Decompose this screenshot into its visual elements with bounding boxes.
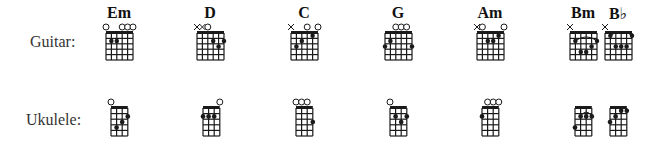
ukulele-row-label: Ukulele:	[26, 111, 81, 129]
guitar-row-label: Guitar:	[30, 33, 75, 51]
finger-dot	[607, 120, 612, 125]
finger-dot	[310, 120, 315, 125]
open-string-marker	[130, 24, 136, 30]
finger-dot	[578, 114, 583, 119]
ukulele-diagram-d	[193, 98, 230, 146]
finger-dot	[404, 114, 409, 119]
open-string-marker	[304, 99, 310, 105]
finger-dot	[583, 50, 588, 55]
finger-dot	[629, 33, 634, 38]
guitar-diagram-c	[281, 23, 328, 70]
finger-dot	[589, 44, 594, 49]
open-string-marker	[304, 24, 310, 30]
chord-name-d: D	[180, 4, 240, 22]
finger-dot	[398, 120, 403, 125]
finger-dot	[608, 33, 613, 38]
finger-dot	[578, 50, 583, 55]
finger-dot	[299, 39, 304, 44]
finger-dot	[479, 114, 484, 119]
guitar-diagram-bb	[595, 23, 642, 70]
guitar-diagram-em	[96, 23, 143, 70]
chord-name-g: G	[368, 4, 428, 22]
open-string-marker	[387, 99, 393, 105]
muted-string-marker	[194, 24, 200, 30]
finger-dot	[200, 114, 205, 119]
guitar-diagram-g	[375, 23, 422, 70]
finger-dot	[573, 39, 578, 44]
finger-dot	[624, 44, 629, 49]
ukulele-diagram-bb	[600, 98, 637, 146]
open-string-marker	[495, 99, 501, 105]
finger-dot	[409, 44, 414, 49]
ukulele-diagram-em	[101, 98, 138, 146]
open-string-marker	[204, 24, 210, 30]
finger-dot	[294, 44, 299, 49]
ukulele-diagram-bm	[565, 98, 602, 146]
finger-dot	[114, 125, 119, 130]
ukulele-diagram-am	[472, 98, 509, 146]
finger-dot	[388, 39, 393, 44]
open-string-marker	[501, 24, 507, 30]
finger-dot	[572, 125, 577, 130]
finger-dot	[210, 39, 215, 44]
open-string-marker	[479, 24, 485, 30]
open-string-marker	[103, 24, 109, 30]
finger-dot	[310, 33, 315, 38]
finger-dot	[216, 44, 221, 49]
open-string-marker	[216, 99, 222, 105]
finger-dot	[589, 114, 594, 119]
finger-dot	[393, 114, 398, 119]
finger-dot	[613, 44, 618, 49]
finger-dot	[211, 114, 216, 119]
guitar-diagram-d	[187, 23, 234, 70]
finger-dot	[618, 44, 623, 49]
chord-name-am: Am	[460, 4, 520, 22]
finger-dot	[618, 108, 623, 113]
finger-dot	[583, 114, 588, 119]
chord-name-em: Em	[89, 4, 149, 22]
chord-name-c: C	[274, 4, 334, 22]
finger-dot	[490, 39, 495, 44]
open-string-marker	[315, 24, 321, 30]
guitar-diagram-am	[467, 23, 514, 70]
finger-dot	[624, 108, 629, 113]
muted-string-marker	[567, 24, 573, 30]
finger-dot	[485, 39, 490, 44]
finger-dot	[119, 120, 124, 125]
finger-dot	[125, 114, 130, 119]
finger-dot	[221, 39, 226, 44]
chord-name-bb: B♭	[588, 4, 648, 23]
muted-string-marker	[288, 24, 294, 30]
finger-dot	[114, 39, 119, 44]
finger-dot	[496, 33, 501, 38]
open-string-marker	[403, 24, 409, 30]
finger-dot	[613, 114, 618, 119]
finger-dot	[206, 114, 211, 119]
ukulele-diagram-g	[380, 98, 417, 146]
ukulele-diagram-c	[286, 98, 323, 146]
open-string-marker	[108, 99, 114, 105]
finger-dot	[382, 44, 387, 49]
finger-dot	[109, 39, 114, 44]
muted-string-marker	[602, 24, 608, 30]
